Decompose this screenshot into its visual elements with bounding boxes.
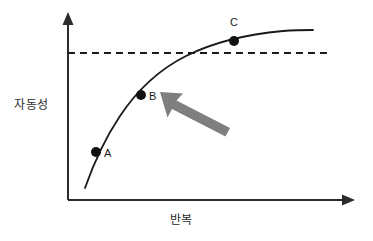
emphasis-arrow-icon: [160, 92, 230, 137]
x-axis-arrowhead-icon: [342, 195, 355, 206]
data-point-b-label: B: [149, 90, 156, 102]
data-point-c-label: C: [230, 16, 238, 28]
data-point-c[interactable]: [229, 36, 239, 46]
y-axis-label: 자동성: [14, 95, 49, 112]
data-point-b[interactable]: [136, 90, 146, 100]
y-axis-arrowhead-icon: [63, 12, 74, 25]
chart-figure: 자동성 반복 A B C: [0, 0, 373, 241]
x-axis-label: 반복: [170, 210, 193, 227]
data-point-a-label: A: [104, 147, 111, 159]
chart-plot-area: [0, 0, 373, 241]
data-point-a[interactable]: [91, 147, 101, 157]
